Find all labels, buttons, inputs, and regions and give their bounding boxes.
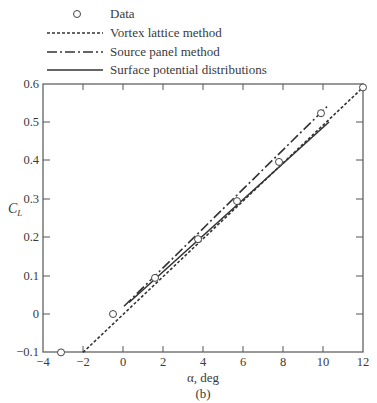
y-tick-label: 0.5	[23, 115, 39, 129]
x-tick-label: 4	[200, 355, 207, 369]
plot-frame	[43, 84, 363, 352]
y-tick-label: 0.4	[23, 153, 39, 167]
y-tick-label: 0.1	[23, 269, 39, 283]
legend-label-source: Source panel method	[110, 44, 220, 59]
x-tick-label: −2	[76, 355, 89, 369]
y-ticks	[43, 122, 363, 314]
legend-data-marker-icon	[74, 11, 81, 18]
x-ticks	[83, 84, 323, 352]
x-tick-label: 12	[357, 355, 370, 369]
x-axis-label: α, deg	[187, 370, 220, 385]
x-tick-label: 8	[280, 355, 286, 369]
y-tick-label: 0.6	[23, 77, 39, 91]
vortex-lattice-line	[83, 87, 363, 352]
y-tick-label: 0.2	[23, 230, 39, 244]
y-tick-label: −0.1	[16, 345, 39, 359]
legend-label-vortex: Vortex lattice method	[110, 25, 222, 40]
x-tick-label: 10	[317, 355, 330, 369]
x-tick-label: 2	[160, 355, 166, 369]
figure-caption: (b)	[195, 386, 210, 401]
y-tick-label: 0	[33, 307, 39, 321]
legend-label-surface: Surface potential distributions	[110, 62, 267, 77]
chart: Data Vortex lattice method Source panel …	[0, 0, 377, 403]
x-tick-label: 0	[120, 355, 126, 369]
x-tick-label: 6	[240, 355, 246, 369]
legend: Data Vortex lattice method Source panel …	[47, 6, 267, 77]
y-tick-label: 0.3	[23, 192, 39, 206]
legend-label-data: Data	[110, 6, 135, 21]
data-points	[58, 84, 367, 356]
surface-potential-line	[129, 122, 329, 303]
y-axis-label: CL	[8, 201, 22, 218]
